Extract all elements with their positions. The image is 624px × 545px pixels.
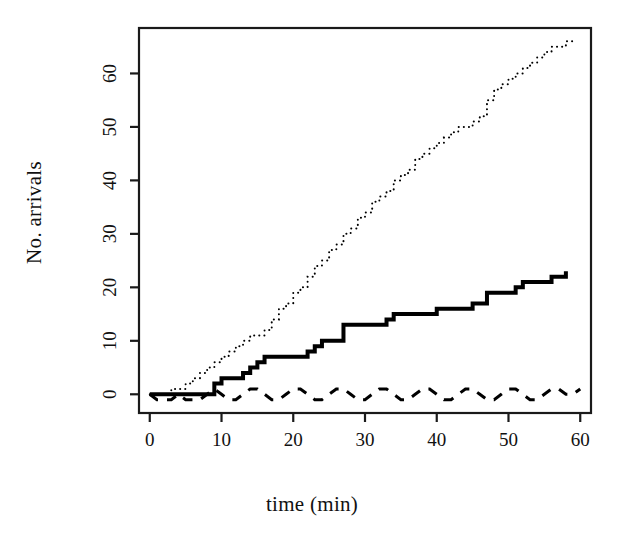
y-tick-label: 50 — [99, 117, 120, 136]
y-axis-title: No. arrivals — [22, 133, 47, 293]
y-tick-label: 60 — [99, 64, 120, 83]
y-tick-label: 30 — [99, 224, 120, 243]
x-tick-label: 10 — [212, 429, 231, 450]
x-tick-label: 0 — [145, 429, 155, 450]
x-tick-label: 60 — [571, 429, 590, 450]
y-tick-label: 0 — [99, 390, 120, 400]
plot-background — [0, 0, 624, 545]
x-axis-title: time (min) — [0, 492, 624, 517]
y-tick-label: 20 — [99, 278, 120, 297]
x-tick-label: 20 — [284, 429, 303, 450]
x-tick-label: 40 — [427, 429, 446, 450]
chart-plot-area: 0102030405060 0102030405060 — [0, 0, 624, 545]
x-tick-label: 50 — [499, 429, 518, 450]
y-tick-label: 40 — [99, 171, 120, 190]
x-tick-label: 30 — [356, 429, 375, 450]
chart-figure: 0102030405060 0102030405060 time (min) N… — [0, 0, 624, 545]
y-tick-label: 10 — [99, 331, 120, 350]
